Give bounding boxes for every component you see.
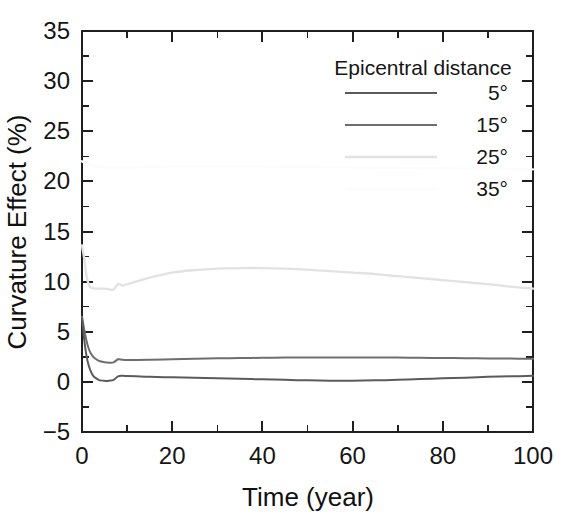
y-tick-label: 35 <box>43 17 70 44</box>
chart-figure: −505101520253035 020406080100 Time (year… <box>0 0 568 517</box>
x-axis-title: Time (year) <box>242 482 374 512</box>
x-tick-label: 20 <box>159 442 186 469</box>
legend-entries: 5°15°25°35° <box>345 81 508 200</box>
series-line-15deg <box>82 317 533 363</box>
curvature-effect-line-chart: −505101520253035 020406080100 Time (year… <box>0 0 568 517</box>
data-series-group <box>82 161 533 381</box>
y-tick-label: 15 <box>43 218 70 245</box>
y-tick-label: 20 <box>43 167 70 194</box>
axis-ticks <box>82 31 533 432</box>
y-tick-label: 5 <box>57 318 70 345</box>
x-tick-label: 0 <box>75 442 88 469</box>
x-tick-label: 40 <box>249 442 276 469</box>
x-tick-label: 60 <box>339 442 366 469</box>
series-line-5deg <box>82 318 533 381</box>
chart-legend: Epicentral distance 5°15°25°35° <box>334 56 511 200</box>
y-tick-label: −5 <box>43 418 70 445</box>
series-line-25deg <box>82 246 533 290</box>
legend-title: Epicentral distance <box>334 56 511 79</box>
plot-frame <box>82 31 533 432</box>
legend-label-25deg: 25° <box>476 145 508 168</box>
x-tick-label: 100 <box>513 442 553 469</box>
legend-label-5deg: 5° <box>488 81 508 104</box>
series-line-35deg <box>82 161 533 169</box>
legend-label-15deg: 15° <box>476 113 508 136</box>
y-tick-label: 0 <box>57 368 70 395</box>
legend-label-35deg: 35° <box>476 177 508 200</box>
x-tick-labels: 020406080100 <box>75 442 553 469</box>
y-axis-title: Curvature Effect (%) <box>2 114 32 349</box>
y-tick-labels: −505101520253035 <box>43 17 70 445</box>
y-tick-label: 25 <box>43 117 70 144</box>
x-tick-label: 80 <box>429 442 456 469</box>
y-tick-label: 30 <box>43 67 70 94</box>
y-tick-label: 10 <box>43 268 70 295</box>
